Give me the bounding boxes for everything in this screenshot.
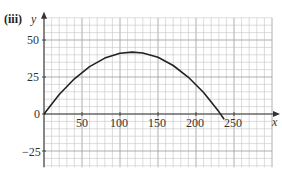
x-tick-200: 200: [186, 117, 204, 129]
chart-plot-area: [0, 0, 282, 177]
y-axis-label: y: [31, 13, 36, 25]
y-axis-arrow-icon: [41, 12, 47, 19]
x-tick-100: 100: [110, 117, 128, 129]
x-tick-150: 150: [148, 117, 166, 129]
x-tick-50: 50: [76, 117, 88, 129]
y-tick-50: 50: [27, 34, 39, 46]
y-tick-25: 25: [27, 71, 39, 83]
x-tick-250: 250: [224, 117, 242, 129]
y-tick-0: 0: [34, 108, 40, 120]
y-tick-neg25: −25: [22, 146, 41, 158]
x-axis-label: x: [272, 116, 277, 128]
